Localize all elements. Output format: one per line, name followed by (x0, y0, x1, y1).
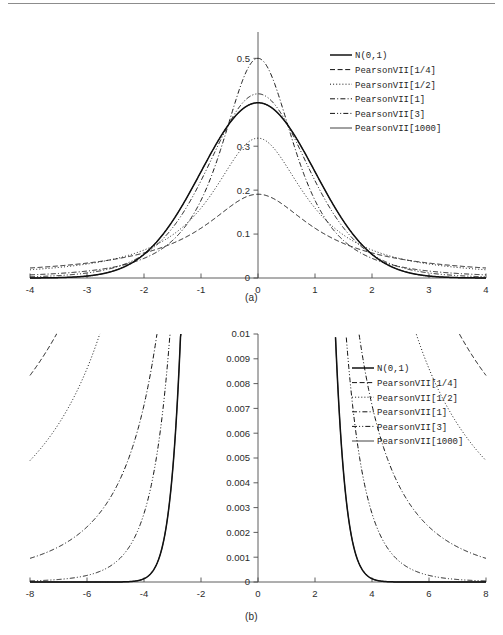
y-tick-label: 0.5 (237, 53, 250, 64)
x-tick-label: 2 (312, 588, 317, 599)
y-tick-label: 0.1 (237, 228, 250, 239)
y-tick-label: 0 (245, 272, 250, 283)
legend: N(0,1)PearsonVII[1/4]PearsonVII[1/2]Pear… (330, 51, 441, 134)
y-tick-label: 0.009 (226, 353, 250, 364)
panel-b-caption: (b) (0, 611, 503, 622)
x-tick-label: -6 (83, 588, 91, 599)
legend-label: PearsonVII[1/4] (377, 379, 458, 389)
x-tick-label: 6 (426, 588, 431, 599)
x-tick-label: -4 (140, 588, 148, 599)
x-tick-label: -2 (197, 588, 205, 599)
panel-a-caption: (a) (0, 292, 503, 303)
panel-b-plot: -8-6-4-20246800.0010.0020.0030.0040.0050… (0, 322, 503, 635)
legend-label: PearsonVII[1/4] (355, 66, 436, 76)
x-tick-label: -8 (26, 588, 34, 599)
legend-label: PearsonVII[1] (377, 408, 447, 418)
panel-b: -8-6-4-20246800.0010.0020.0030.0040.0050… (0, 322, 503, 635)
legend-label: PearsonVII[1] (355, 95, 425, 105)
legend-label: N(0,1) (377, 364, 409, 374)
panel-a-plot: -4-3-2-10123400.10.20.30.5N(0,1)PearsonV… (0, 10, 503, 315)
panel-a: -4-3-2-10123400.10.20.30.5N(0,1)PearsonV… (0, 10, 503, 315)
y-tick-label: 0.003 (226, 502, 250, 513)
y-tick-label: 0.002 (226, 527, 250, 538)
legend-label: PearsonVII[3] (355, 110, 425, 120)
scan-rule-divider (8, 3, 495, 4)
y-tick-label: 0.3 (237, 141, 250, 152)
legend-label: N(0,1) (355, 51, 387, 61)
x-tick-label: 4 (369, 588, 374, 599)
legend-label: PearsonVII[1000] (355, 124, 441, 134)
figure-root: -4-3-2-10123400.10.20.30.5N(0,1)PearsonV… (0, 0, 503, 635)
y-tick-label: 0.001 (226, 552, 250, 563)
y-tick-label: 0.006 (226, 428, 250, 439)
y-tick-label: 0.004 (226, 477, 250, 488)
y-tick-label: 0.008 (226, 378, 250, 389)
legend-label: PearsonVII[1/2] (355, 81, 436, 91)
y-tick-label: 0.01 (232, 328, 251, 339)
x-tick-label: 0 (255, 588, 260, 599)
legend-label: PearsonVII[3] (377, 423, 447, 433)
y-tick-label: 0.2 (237, 185, 250, 196)
x-tick-label: 8 (483, 588, 488, 599)
y-tick-label: 0 (245, 576, 250, 587)
y-tick-label: 0.005 (226, 452, 250, 463)
y-tick-label: 0.007 (226, 403, 250, 414)
legend-label: PearsonVII[1/2] (377, 394, 458, 404)
legend-label: PearsonVII[1000] (377, 437, 463, 447)
